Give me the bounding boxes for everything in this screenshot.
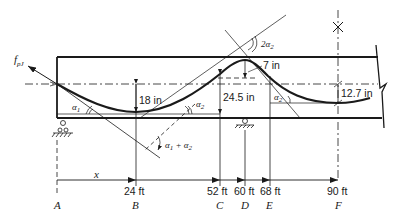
tendon-profile-diagram: fpJ α1 + α2 α1 α2 α2 2α2 18 in 24.5 in 7…	[0, 0, 403, 221]
dim-7in: 7 in	[263, 59, 280, 71]
point-E: E	[265, 199, 273, 211]
angle-sum-label: α1 + α2	[165, 140, 193, 152]
roller-support-D-icon	[235, 119, 254, 129]
point-D: D	[240, 199, 249, 211]
distance-F: 90 ft	[327, 185, 348, 197]
distance-D: 60 ft	[234, 185, 255, 197]
tendon-curve	[57, 60, 370, 112]
alpha2-right-label: α2	[274, 92, 283, 104]
force-label: fpJ	[14, 53, 25, 68]
point-F: F	[334, 199, 342, 211]
alpha2-label: α2	[196, 99, 205, 111]
dim-18in: 18 in	[139, 94, 162, 106]
pin-support-A-icon	[52, 121, 73, 138]
point-A: A	[53, 199, 61, 211]
dim-24-5in: 24.5 in	[223, 91, 255, 103]
beam	[57, 45, 386, 128]
point-C: C	[216, 199, 224, 211]
dim-12-7in: 12.7 in	[341, 87, 373, 99]
distance-B: 24 ft	[124, 185, 145, 197]
double-alpha2-label: 2α2	[261, 39, 274, 51]
point-B: B	[132, 199, 139, 211]
distance-C: 52 ft	[207, 185, 228, 197]
distance-E: 68 ft	[260, 185, 281, 197]
alpha1-label: α1	[72, 102, 80, 114]
force-arrow	[28, 66, 57, 84]
break-line	[376, 45, 386, 128]
x-variable-label: x	[93, 168, 99, 180]
